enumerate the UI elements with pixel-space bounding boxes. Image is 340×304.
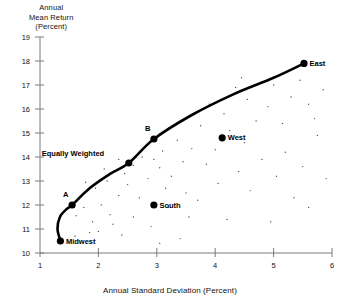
x-tick-label: 6 xyxy=(324,261,340,270)
y-tick-label: 15 xyxy=(14,129,30,138)
y-tick-label: 12 xyxy=(14,201,30,210)
data-point-label: Midwest xyxy=(66,237,96,246)
y-axis-title: Annual Mean Return (Percent) xyxy=(29,3,73,32)
y-tick-label: 10 xyxy=(14,249,30,258)
y-tick-label: 17 xyxy=(14,81,30,90)
data-point-label: South xyxy=(159,201,180,210)
data-point-label: A xyxy=(63,190,68,199)
x-tick-label: 2 xyxy=(90,261,106,270)
data-point-label: East xyxy=(309,59,325,68)
x-axis-title: Annual Standard Deviation (Percent) xyxy=(0,286,340,296)
chart-container: Annual Mean Return (Percent) 10111213141… xyxy=(0,0,340,304)
data-point-label: B xyxy=(145,124,150,133)
y-tick-label: 16 xyxy=(14,105,30,114)
axes xyxy=(40,37,332,253)
x-tick-label: 4 xyxy=(207,261,223,270)
y-tick-label: 19 xyxy=(14,33,30,42)
securities-cloud xyxy=(74,77,327,244)
data-point-label: Equally Weighted xyxy=(42,149,104,158)
y-tick-label: 13 xyxy=(14,177,30,186)
y-tick-label: 14 xyxy=(14,153,30,162)
x-tick-label: 3 xyxy=(149,261,165,270)
x-tick-label: 1 xyxy=(32,261,48,270)
data-point-label: West xyxy=(228,133,246,142)
y-tick-label: 18 xyxy=(14,57,30,66)
y-tick-label: 11 xyxy=(14,225,30,234)
x-tick-label: 5 xyxy=(266,261,282,270)
